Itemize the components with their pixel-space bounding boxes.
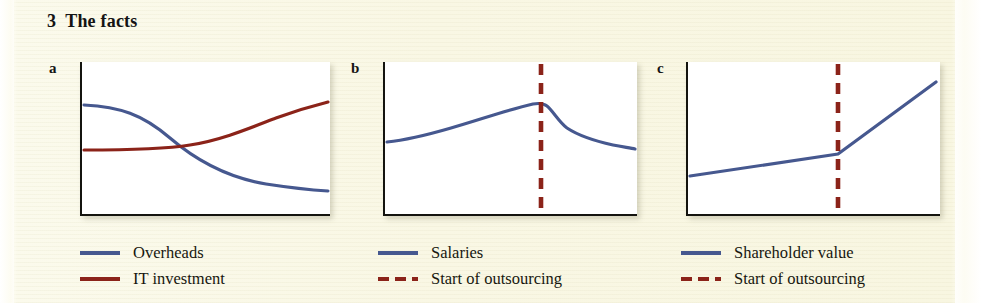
panel-a-y-axis: [80, 62, 82, 216]
panel-a-label: a: [49, 60, 57, 77]
legend-label: Start of outsourcing: [734, 269, 865, 289]
panel-b-y-axis: [383, 62, 385, 216]
legend-label: IT investment: [133, 269, 225, 289]
panel-c-curves: [686, 62, 940, 216]
legend-swatch-solid-blue: [80, 246, 120, 260]
panel-a-legend: Overheads IT investment: [80, 240, 225, 292]
legend-label: Salaries: [431, 243, 483, 263]
panel-b-curves: [383, 62, 637, 216]
legend-item: Overheads: [80, 240, 225, 266]
panel-a-x-axis: [80, 214, 330, 216]
panel-c-plot: [686, 62, 940, 216]
legend-item: Start of outsourcing: [681, 266, 865, 292]
curve-salaries: [387, 103, 635, 149]
panel-b-x-axis: [383, 214, 637, 216]
panel-c-y-axis: [686, 62, 688, 216]
legend-label: Start of outsourcing: [431, 269, 562, 289]
panel-c: c Shareholder value Star: [645, 0, 981, 303]
panel-c-legend: Shareholder value Start of outsourcing: [681, 240, 865, 292]
panel-a-plot: [80, 62, 330, 216]
panel-a-curves: [80, 62, 330, 216]
legend-swatch-solid-blue: [681, 246, 721, 260]
panel-b-label: b: [351, 60, 359, 77]
figure-page: 3The facts a Overheads: [0, 0, 981, 303]
panel-c-label: c: [657, 60, 664, 77]
legend-label: Shareholder value: [734, 243, 854, 263]
legend-label: Overheads: [133, 243, 204, 263]
legend-item: Start of outsourcing: [378, 266, 562, 292]
curve-overheads: [84, 105, 328, 191]
legend-item: IT investment: [80, 266, 225, 292]
panel-b-legend: Salaries Start of outsourcing: [378, 240, 562, 292]
legend-swatch-solid-blue: [378, 246, 418, 260]
legend-item: Shareholder value: [681, 240, 865, 266]
panel-c-x-axis: [686, 214, 940, 216]
curve-shareholder-value: [690, 82, 936, 176]
panel-a: a Overheads IT investmen: [0, 0, 340, 303]
panel-b: b Salaries Start of outs: [340, 0, 645, 303]
legend-item: Salaries: [378, 240, 562, 266]
legend-swatch-solid-red: [80, 272, 120, 286]
legend-swatch-dashed-red: [378, 272, 418, 286]
legend-swatch-dashed-red: [681, 272, 721, 286]
panel-b-plot: [383, 62, 637, 216]
